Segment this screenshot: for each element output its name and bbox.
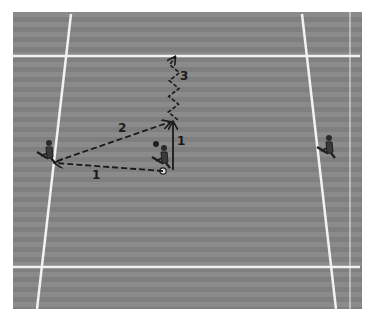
pass-arrow-2: [57, 122, 170, 161]
arrow-label-2: 2: [118, 122, 126, 134]
field-lines: [13, 12, 360, 309]
arrow-label-3: 3: [180, 70, 188, 82]
players: [37, 135, 335, 174]
left-player-icon: [37, 140, 55, 163]
pass-arrow-1: [55, 163, 163, 171]
play-diagram: [0, 0, 371, 323]
center-player-with-ball-icon: [152, 141, 170, 174]
arrow-label-1: 1: [92, 169, 100, 181]
right-sideline: [302, 14, 336, 309]
arrow-label-1: 1: [177, 135, 185, 147]
dribble-arrow-3: [168, 57, 179, 120]
right-player-icon: [317, 135, 335, 158]
